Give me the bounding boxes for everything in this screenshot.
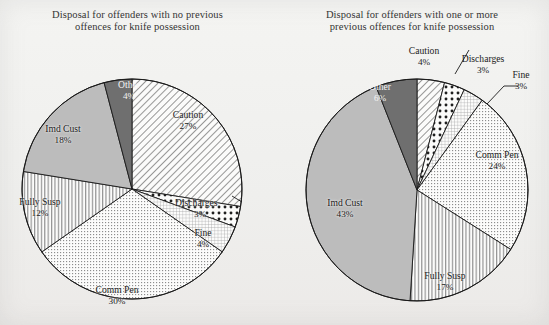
pie-slice-caution (132, 79, 242, 207)
pie-chart-panel-left: Disposal for offenders with no previous … (0, 0, 275, 325)
leader-line-fine (487, 86, 518, 104)
leader-line-discharges (455, 50, 469, 74)
pie-chart-panel-right: Disposal for offenders with one or more … (275, 0, 549, 325)
figure-canvas: Disposal for offenders with no previous … (0, 0, 549, 325)
pie-svg-left (0, 0, 275, 325)
pie-svg-right (275, 0, 549, 325)
